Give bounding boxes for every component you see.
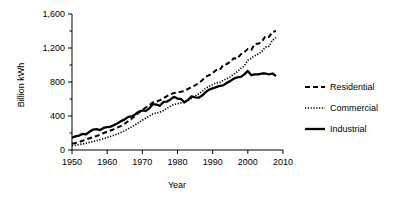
- legend-label-residential: Residential: [330, 82, 375, 92]
- x-tick-label: 1970: [132, 157, 152, 167]
- y-tick-label: 800: [50, 77, 65, 87]
- y-tick-label: 1,200: [42, 43, 65, 53]
- line-chart: 04008001,2001,600 1950196019701980199020…: [0, 0, 403, 205]
- legend-label-industrial: Industrial: [330, 124, 367, 134]
- y-tick-label: 400: [50, 111, 65, 121]
- data-series-group: [72, 31, 276, 146]
- x-tick-label: 2010: [273, 157, 293, 167]
- y-axis-title: Billion kWh: [16, 63, 26, 108]
- x-tick-label: 1990: [203, 157, 223, 167]
- y-tick-label: 0: [60, 145, 65, 155]
- x-tick-label: 1960: [97, 157, 117, 167]
- series-line-industrial: [72, 71, 276, 138]
- legend-label-commercial: Commercial: [330, 103, 378, 113]
- y-tick-label: 1,600: [42, 9, 65, 19]
- x-tick-label: 1980: [167, 157, 187, 167]
- chart-figure: 04008001,2001,600 1950196019701980199020…: [0, 0, 403, 205]
- y-axis: 04008001,2001,600: [42, 9, 72, 155]
- x-axis: 1950196019701980199020002010: [62, 150, 293, 167]
- x-tick-label: 2000: [238, 157, 258, 167]
- x-axis-title: Year: [168, 180, 186, 190]
- chart-legend: ResidentialCommercialIndustrial: [305, 82, 378, 134]
- series-line-residential: [72, 31, 276, 144]
- x-tick-label: 1950: [62, 157, 82, 167]
